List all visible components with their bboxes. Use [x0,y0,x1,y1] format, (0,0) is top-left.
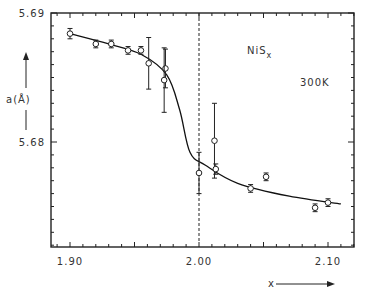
y-axis-arrow-icon [23,52,29,60]
data-point-marker [213,166,219,172]
data-point-marker [93,41,99,47]
data-point-marker [108,41,114,47]
data-point-marker [212,138,218,144]
y-axis-label: a(Å) [6,93,31,105]
data-point-marker [138,48,144,54]
x-axis-label: x [268,278,275,289]
x-tick-label: 2.00 [186,256,212,267]
data-point-marker [325,200,331,206]
data-point-marker [146,61,152,67]
data-point-marker [263,174,269,180]
data-point-marker [312,205,318,211]
data-point-marker [196,170,202,176]
x-axis-arrow-icon [327,281,335,287]
x-tick-label: 1.90 [57,256,83,267]
data-point-marker [163,66,169,72]
x-tick-label: 2.10 [315,256,341,267]
compound-subscript: x [267,51,273,60]
data-point-marker [125,48,131,54]
y-tick-label: 5.69 [19,8,45,19]
temperature-label: 300K [300,77,330,88]
compound-label: NiSx [247,45,272,60]
fit-curve-line [70,34,341,204]
data-point-marker [161,77,167,83]
data-point-marker [67,31,73,37]
data-point-marker [248,186,254,192]
y-tick-label: 5.68 [19,137,45,148]
lattice-parameter-chart: 5.685.691.902.002.10a(Å)xNiSx300K [0,0,366,290]
